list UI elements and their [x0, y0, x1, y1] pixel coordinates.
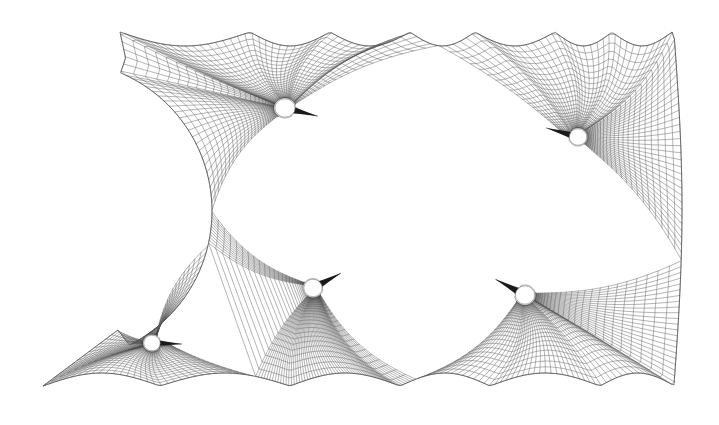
body-nose-cap [304, 279, 322, 296]
body-nose-cap [515, 286, 534, 304]
body-nose-cap [144, 335, 161, 351]
body-nose-cap [569, 129, 586, 146]
body-nose-cap [275, 99, 295, 117]
mesh-plot-canvas [0, 0, 719, 425]
